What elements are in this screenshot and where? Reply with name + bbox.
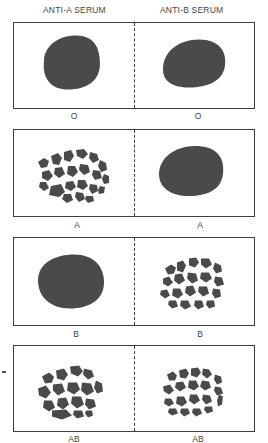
anti-a-sample-b (14, 238, 134, 325)
label-b-left: B (56, 329, 96, 339)
panel-type-o (13, 22, 255, 109)
label-o-left: O (54, 111, 94, 121)
panel-type-a (13, 129, 255, 217)
anti-b-sample-a (135, 130, 255, 216)
label-ab-left: AB (54, 434, 94, 443)
panel-type-b (13, 237, 255, 326)
stray-mark (2, 371, 6, 373)
anti-a-sample-ab (14, 346, 134, 431)
clumped-blob-icon (135, 346, 255, 431)
clumped-blob-icon (14, 346, 134, 431)
smooth-blob-icon (135, 23, 255, 108)
label-ab-right: AB (178, 434, 218, 443)
smooth-blob-icon (14, 238, 134, 325)
smooth-blob-icon (135, 130, 255, 216)
anti-a-sample-o (14, 23, 134, 108)
panel-type-ab (13, 345, 255, 432)
anti-b-sample-b (135, 238, 255, 325)
anti-a-sample-a (14, 130, 134, 216)
anti-b-serum-header: ANTI-B SERUM (160, 5, 223, 15)
label-b-right: B (180, 329, 220, 339)
label-a-left: A (57, 220, 97, 230)
clumped-blob-icon (135, 238, 255, 325)
anti-a-serum-header: ANTI-A SERUM (43, 5, 106, 15)
label-o-right: O (178, 111, 218, 121)
anti-b-sample-ab (135, 346, 255, 431)
clumped-blob-icon (14, 130, 134, 216)
label-a-right: A (180, 220, 220, 230)
smooth-blob-icon (14, 23, 134, 108)
anti-b-sample-o (135, 23, 255, 108)
